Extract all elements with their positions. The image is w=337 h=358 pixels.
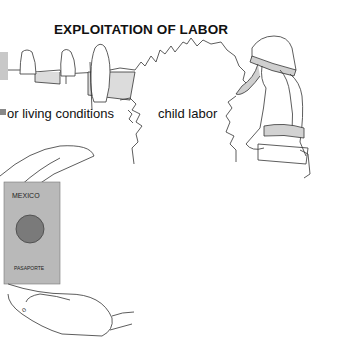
illustration: MEXICO PASAPORTE o: [0, 0, 337, 358]
label-child-labor: child labor: [158, 106, 217, 121]
child-figure-sketch: [226, 36, 310, 178]
workers-field-sketch: [8, 38, 249, 164]
passport-word: PASAPORTE: [14, 265, 45, 271]
passport-country: MEXICO: [12, 192, 40, 199]
hands-passport-sketch: MEXICO PASAPORTE o: [0, 146, 134, 336]
passport-seal-icon: [16, 215, 44, 243]
label-living-conditions: or living conditions: [7, 106, 114, 121]
page-title: EXPLOITATION OF LABOR: [54, 22, 228, 37]
left-edge-mark: [0, 109, 6, 115]
left-edge-fragment: [0, 52, 8, 80]
